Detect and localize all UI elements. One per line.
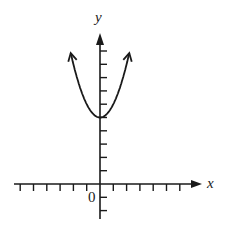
y-axis-label: y	[93, 9, 102, 25]
x-axis-arrow-icon	[191, 180, 202, 188]
x-axis-label: x	[206, 175, 214, 191]
axes	[14, 33, 202, 219]
origin-label: 0	[88, 189, 96, 205]
y-axis-arrow-icon	[96, 33, 104, 45]
y-ticks	[100, 51, 107, 211]
parabola-graph: y x 0	[0, 0, 226, 226]
